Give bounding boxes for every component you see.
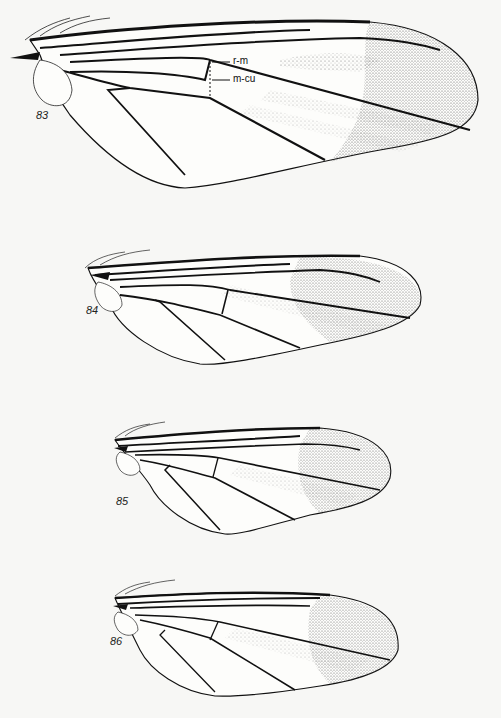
wing-83 bbox=[10, 16, 478, 188]
wing-84 bbox=[85, 250, 421, 364]
wing-plate: 83 r-m m-cu 84 85 86 bbox=[0, 0, 501, 718]
figure-label-85: 85 bbox=[116, 495, 128, 507]
figure-label-86: 86 bbox=[110, 635, 122, 647]
wing-illustrations bbox=[0, 0, 501, 718]
wing-85 bbox=[114, 422, 391, 534]
vein-label-r-m: r-m bbox=[233, 55, 248, 66]
wing-86 bbox=[113, 580, 398, 696]
figure-label-84: 84 bbox=[86, 304, 98, 316]
figure-label-83: 83 bbox=[36, 109, 48, 121]
vein-label-m-cu: m-cu bbox=[233, 73, 255, 84]
